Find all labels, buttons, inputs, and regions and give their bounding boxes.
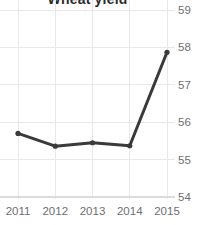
- y-tick-label-55: 55: [178, 154, 200, 166]
- data-point-2014: [127, 143, 132, 148]
- line-chart: Wheat yield 595857565554 201120122013201…: [0, 0, 203, 225]
- vertical-gridlines: [18, 0, 167, 199]
- horizontal-gridlines: [0, 10, 175, 197]
- y-axis: 595857565554: [178, 0, 203, 199]
- plot-area: [0, 0, 175, 199]
- x-tick-label-2015: 2015: [154, 205, 180, 217]
- plot-svg: [0, 0, 175, 199]
- y-tick-label-58: 58: [178, 41, 200, 53]
- x-tick-label-2014: 2014: [117, 205, 143, 217]
- data-point-2015: [164, 50, 169, 55]
- x-tick-label-2012: 2012: [42, 205, 68, 217]
- x-axis: 20112012201320142015: [0, 199, 203, 225]
- y-tick-label-57: 57: [178, 79, 200, 91]
- x-tick-label-2013: 2013: [80, 205, 106, 217]
- x-tick-label-2011: 2011: [6, 205, 31, 217]
- data-point-2012: [53, 144, 58, 149]
- y-tick-label-59: 59: [178, 4, 200, 16]
- y-tick-label-56: 56: [178, 116, 200, 128]
- data-point-2011: [15, 131, 20, 136]
- data-point-2013: [90, 140, 95, 145]
